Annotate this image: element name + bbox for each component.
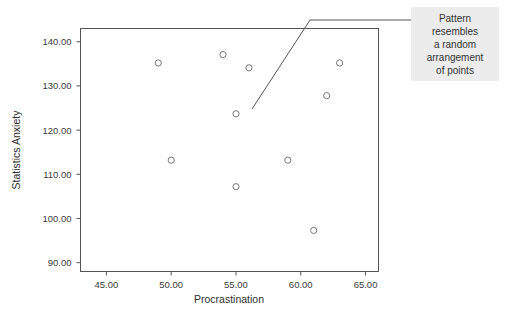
x-axis-ticks: 45.0050.0055.0060.0065.00 <box>95 272 378 290</box>
x-tick-label: 65.00 <box>354 279 378 290</box>
y-axis-title: Statistics Anxiety <box>10 110 22 190</box>
data-point-marker <box>155 60 161 66</box>
data-point-group <box>155 51 343 233</box>
annotation-line: Pattern <box>439 12 471 25</box>
data-point-marker <box>233 111 239 117</box>
annotation-leader-line <box>252 20 411 109</box>
data-point-marker <box>311 227 317 233</box>
annotation-callout-box: Pattern resembles a random arrangement o… <box>411 7 499 81</box>
annotation-line: of points <box>436 64 474 77</box>
x-tick-label: 55.00 <box>224 279 248 290</box>
y-axis-ticks: 90.00100.00110.00120.00130.00140.00 <box>42 36 80 268</box>
annotation-line: arrangement <box>427 51 484 64</box>
data-point-marker <box>246 65 252 71</box>
y-tick-label: 140.00 <box>42 36 71 47</box>
y-tick-label: 120.00 <box>42 125 71 136</box>
x-tick-label: 50.00 <box>159 279 183 290</box>
scatter-plot-figure: 90.00100.00110.00120.00130.00140.00 45.0… <box>0 0 505 323</box>
x-tick-label: 60.00 <box>289 279 313 290</box>
y-tick-label: 90.00 <box>48 257 72 268</box>
data-point-marker <box>233 184 239 190</box>
x-tick-label: 45.00 <box>95 279 119 290</box>
y-tick-label: 100.00 <box>42 213 71 224</box>
data-point-marker <box>168 157 174 163</box>
plot-frame <box>81 29 379 272</box>
data-point-marker <box>220 51 226 57</box>
data-point-marker <box>324 93 330 99</box>
annotation-line: resembles <box>432 25 478 38</box>
annotation-line: a random <box>434 38 476 51</box>
x-axis-title: Procrastination <box>194 293 264 305</box>
y-tick-label: 110.00 <box>43 169 71 180</box>
y-tick-label: 130.00 <box>42 80 71 91</box>
data-point-marker <box>337 60 343 66</box>
data-point-marker <box>285 157 291 163</box>
